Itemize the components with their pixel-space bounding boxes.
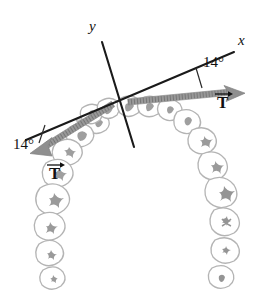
tooth-left-8 xyxy=(40,267,65,289)
tension-label-right-text: T xyxy=(217,94,228,111)
tooth-left-5 xyxy=(36,184,70,215)
angle-label-left: 14° xyxy=(13,137,34,152)
x-axis-label: x xyxy=(238,33,245,48)
tooth-right-5 xyxy=(205,177,237,207)
tension-label-left-text: T xyxy=(49,165,60,182)
angle-label-right: 14° xyxy=(203,55,224,70)
tooth-right-4 xyxy=(198,152,227,180)
teeth-arch-group xyxy=(34,96,239,289)
tension-label-right: T xyxy=(214,90,225,108)
y-axis-line xyxy=(102,42,134,147)
tooth-right-8 xyxy=(208,266,234,289)
tooth-left-6 xyxy=(34,212,65,240)
angle-marker-right xyxy=(196,68,202,88)
tooth-right-6 xyxy=(210,208,239,236)
tooth-left-7 xyxy=(36,240,64,265)
y-axis-label: y xyxy=(89,19,96,34)
dental-arch-force-diagram xyxy=(0,0,275,303)
tooth-right-3 xyxy=(188,128,216,154)
tooth-right-7 xyxy=(211,238,239,264)
tension-label-left: T xyxy=(46,161,57,179)
